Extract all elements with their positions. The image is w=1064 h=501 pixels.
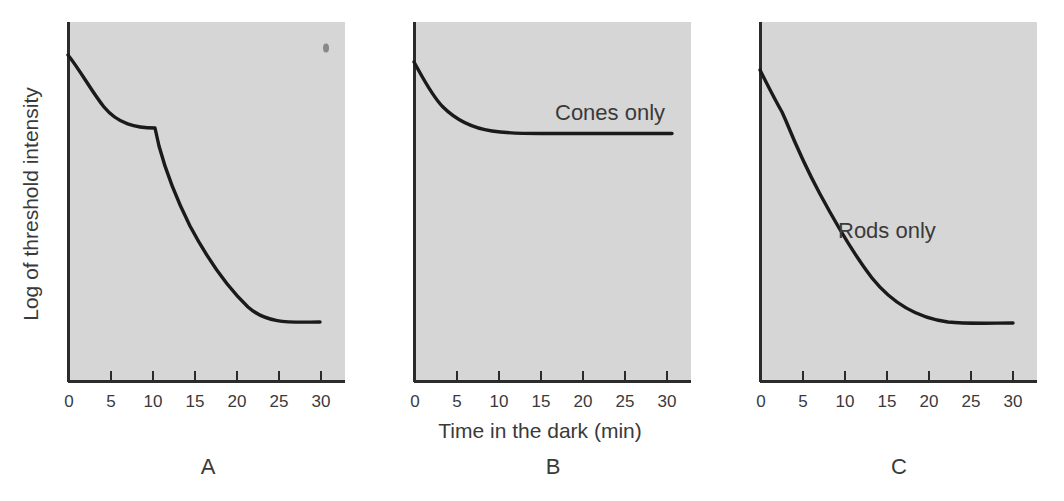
panel-letter-a: A bbox=[201, 454, 216, 479]
panel-c-tick-label: 30 bbox=[1004, 392, 1023, 411]
panel-b-tick-label: 5 bbox=[452, 392, 461, 411]
dark-adaptation-figure: 0 5 10 15 20 25 30 A Log of threshold in… bbox=[0, 0, 1064, 501]
panel-b-tick-label: 10 bbox=[490, 392, 509, 411]
panel-letter-c: C bbox=[891, 454, 907, 479]
panel-a-plot-area bbox=[68, 22, 345, 382]
panel-a-tick-label: 30 bbox=[312, 392, 331, 411]
panel-c-tick-label: 5 bbox=[798, 392, 807, 411]
panel-b-tick-label: 0 bbox=[410, 392, 419, 411]
cones-only-annotation: Cones only bbox=[555, 100, 665, 125]
y-axis-label: Log of threshold intensity bbox=[19, 87, 42, 321]
panel-c-tick-label: 10 bbox=[836, 392, 855, 411]
panel-a-tick-label: 5 bbox=[106, 392, 115, 411]
panel-b-tick-label: 15 bbox=[532, 392, 551, 411]
panel-letter-b: B bbox=[546, 454, 561, 479]
panel-a-tick-label: 0 bbox=[64, 392, 73, 411]
scan-speck-artifact bbox=[323, 44, 329, 53]
panel-a-tick-label: 10 bbox=[144, 392, 163, 411]
panel-b-tick-label: 25 bbox=[616, 392, 635, 411]
panel-b-plot-area bbox=[414, 22, 691, 382]
x-axis-label: Time in the dark (min) bbox=[438, 419, 641, 442]
panel-c-tick-label: 15 bbox=[878, 392, 897, 411]
panel-a-tick-label: 15 bbox=[186, 392, 205, 411]
panel-c-tick-label: 25 bbox=[962, 392, 981, 411]
rods-only-annotation: Rods only bbox=[838, 218, 936, 243]
panel-c-tick-label: 0 bbox=[756, 392, 765, 411]
panel-b-tick-label: 30 bbox=[658, 392, 677, 411]
panel-a-tick-label: 25 bbox=[270, 392, 289, 411]
panel-b-tick-label: 20 bbox=[574, 392, 593, 411]
panel-c-tick-label: 20 bbox=[920, 392, 939, 411]
panel-a-tick-label: 20 bbox=[228, 392, 247, 411]
panel-c-plot-area bbox=[760, 22, 1037, 382]
